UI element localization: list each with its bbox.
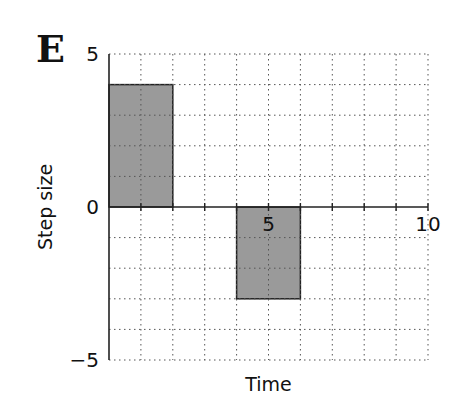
y-tick-label: 0 <box>86 195 99 219</box>
step-size-chart: 510−505TimeStep size <box>0 0 460 406</box>
y-axis-label: Step size <box>34 164 56 250</box>
x-tick-label: 10 <box>415 212 440 236</box>
bar-0 <box>109 85 173 207</box>
y-tick-label: 5 <box>86 42 99 66</box>
y-tick-label: −5 <box>70 348 99 372</box>
x-axis-label: Time <box>244 373 292 395</box>
x-tick-label: 5 <box>262 212 275 236</box>
